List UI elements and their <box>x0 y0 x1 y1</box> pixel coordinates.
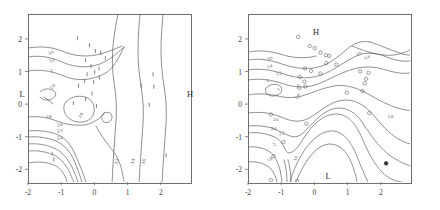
contour-label: 2.8 <box>388 114 393 119</box>
xtick-right-4: 2 <box>379 188 383 197</box>
ytick-right-3: 1 <box>230 67 242 76</box>
contour-label: 2.4 <box>271 126 276 131</box>
ytick-left-3: 1 <box>10 67 22 76</box>
ytick-left-0: -2 <box>10 165 22 174</box>
axis-ticks-right <box>245 39 381 185</box>
xtick-left-2: 0 <box>93 188 97 197</box>
contour-label: 3 <box>297 83 299 88</box>
contour-label: 3.2 <box>275 70 281 76</box>
annotation-low-left: L <box>19 89 24 99</box>
xtick-left-1: -1 <box>58 188 64 197</box>
annotation-high-right: H <box>313 27 319 37</box>
xtick-right-1: -1 <box>278 188 284 197</box>
data-markers-left <box>54 36 166 161</box>
xtick-right-2: 0 <box>313 188 317 197</box>
annotation-high-left: H <box>187 89 193 99</box>
ytick-right-4: 2 <box>230 34 242 43</box>
contour-label: 3 <box>266 78 268 83</box>
ytick-left-1: -1 <box>10 132 22 141</box>
contour-label: 2.6 <box>56 121 62 127</box>
ytick-right-1: -1 <box>230 132 242 141</box>
xtick-left-0: -2 <box>25 188 31 197</box>
data-markers-right <box>269 35 388 183</box>
ytick-left-2: 0 <box>10 100 22 109</box>
contour-lines-right <box>248 41 410 182</box>
ytick-right-0: -2 <box>230 165 242 174</box>
contour-label: 2.2 <box>279 130 285 136</box>
annotation-low-right: L <box>325 171 330 181</box>
contour-panel-right: -2 -1 0 1 2 2 1 0 -1 -2 H L 3.6 3.4 3.2 … <box>220 0 440 210</box>
ytick-left-4: 2 <box>10 34 22 43</box>
contour-label: 2.8 <box>46 114 51 119</box>
xtick-left-3: 1 <box>126 188 130 197</box>
contour-lines-left <box>28 14 166 182</box>
contour-panel-left: -2 -1 0 1 2 2 1 0 -1 -2 L H 3.6 3.2 3 2.… <box>0 0 220 210</box>
contour-canvas-left <box>0 0 220 210</box>
contour-label: 2.6 <box>273 117 278 122</box>
ytick-right-2: 0 <box>230 100 242 109</box>
xtick-left-4: 2 <box>159 188 163 197</box>
xtick-right-0: -2 <box>245 188 251 197</box>
figure-root: -2 -1 0 1 2 2 1 0 -1 -2 L H 3.6 3.2 3 2.… <box>0 0 440 210</box>
xtick-right-3: 1 <box>346 188 350 197</box>
contour-label: 2.2 <box>56 134 62 140</box>
